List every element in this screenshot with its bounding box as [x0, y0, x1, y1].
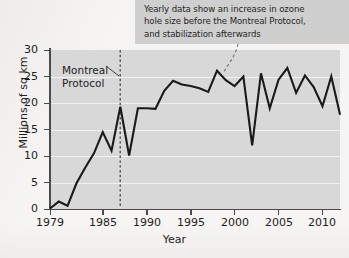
annotation-leader-line	[223, 44, 238, 73]
chart-figure: Yearly data show an increase in ozone ho…	[0, 0, 349, 258]
chart-canvas	[0, 0, 349, 258]
montreal-protocol-leader-line	[106, 66, 119, 76]
data-series-line	[50, 68, 340, 208]
